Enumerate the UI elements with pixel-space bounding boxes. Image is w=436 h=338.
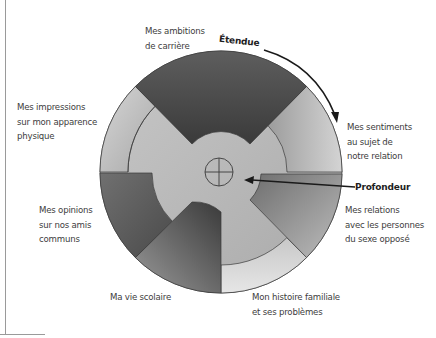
- label-opinions: Mes opinions sur nos amis communs: [39, 203, 93, 247]
- label-histoire: Mon histoire familiale et ses problèmes: [252, 290, 340, 319]
- label-depth: Profondeur: [355, 180, 410, 195]
- label-sentiments: Mes sentiments au sujet de notre relatio…: [347, 120, 412, 164]
- center-crosshair-icon: [205, 158, 233, 186]
- label-ambitions: Mes ambitions de carrière: [145, 24, 205, 53]
- penetration-wheel: [0, 0, 436, 338]
- label-impressions: Mes impressions sur mon apparence physiq…: [17, 100, 97, 144]
- label-scolaire: Ma vie scolaire: [110, 290, 171, 305]
- label-relations: Mes relations avec les personnes du sexe…: [345, 203, 424, 247]
